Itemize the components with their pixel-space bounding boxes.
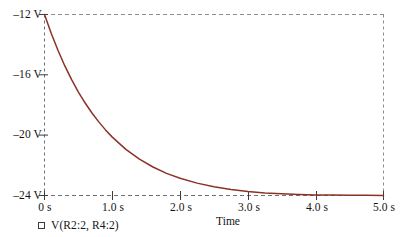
x-tick-label-2s: 2.0 s [157, 201, 205, 213]
x-axis-title: Time [198, 215, 258, 227]
x-tick-label-1s: 1.0 s [89, 201, 137, 213]
y-tick-label-minus20: –20 V [0, 128, 42, 140]
legend[interactable]: V(R2:2, R4:2) [38, 219, 119, 231]
x-tick-label-0s: 0 s [21, 201, 69, 213]
y-tick-label-minus12: –12 V [0, 8, 42, 20]
data-series-v-r2-r4 [45, 15, 384, 196]
x-tick-label-4s: 4.0 s [293, 201, 341, 213]
x-tick-label-3s: 3.0 s [225, 201, 273, 213]
y-tick-marks [39, 15, 48, 196]
y-tick-label-minus24: –24 V [0, 189, 42, 201]
x-tick-label-5s: 5.0 s [360, 201, 400, 213]
square-marker-icon [38, 222, 45, 229]
chart-container: –12 V –16 V –20 V –24 V 0 s 1.0 s 2.0 s … [0, 0, 400, 237]
y-tick-label-minus16: –16 V [0, 68, 42, 80]
legend-label: V(R2:2, R4:2) [51, 219, 119, 231]
